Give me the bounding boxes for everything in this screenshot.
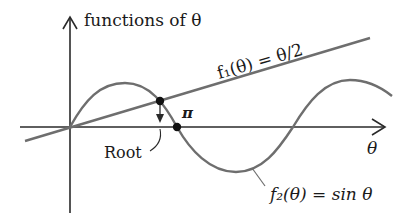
root-leader <box>150 129 161 151</box>
root-arrow-head-icon <box>156 114 164 123</box>
pi-point <box>173 123 181 131</box>
curve-f2-label: f₂(θ) = sin θ <box>268 184 372 204</box>
pi-label: π <box>181 104 194 122</box>
intersection-point <box>156 97 164 105</box>
line-f1 <box>25 38 370 141</box>
y-axis-label: functions of θ <box>84 10 201 30</box>
root-finding-diagram: functions of θ θ f₁(θ) = θ/2 f₂(θ) = sin… <box>0 0 407 223</box>
root-label: Root <box>104 143 142 162</box>
f2-leader <box>252 168 265 186</box>
x-axis-label: θ <box>367 138 377 158</box>
line-f1-label: f₁(θ) = θ/2 <box>215 39 306 83</box>
